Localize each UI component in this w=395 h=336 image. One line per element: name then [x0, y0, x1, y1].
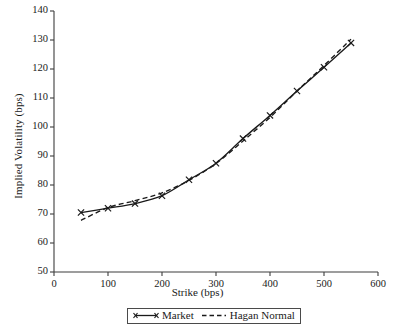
y-tick-label: 90 — [14, 149, 48, 160]
x-tick-label: 200 — [142, 278, 182, 289]
x-tick-label: 300 — [196, 278, 236, 289]
legend-label-market: Market — [162, 310, 194, 321]
y-tick-label: 60 — [14, 236, 48, 247]
y-axis-ticks — [50, 11, 54, 272]
y-tick-label: 130 — [14, 33, 48, 44]
legend-label-hagan-normal: Hagan Normal — [230, 310, 295, 321]
series-line-hagan-normal — [81, 39, 351, 220]
x-tick-label: 0 — [34, 278, 74, 289]
x-tick-label: 400 — [250, 278, 290, 289]
series-markers-market — [78, 40, 354, 216]
legend-item-hagan-normal: Hagan Normal — [201, 310, 295, 321]
chart-figure: Implied Volatility (bps) Strike (bps) 50… — [0, 0, 395, 336]
y-tick-label: 120 — [14, 62, 48, 73]
y-tick-label: 70 — [14, 207, 48, 218]
axis-lines — [54, 11, 378, 272]
legend-swatch-hagan-normal-icon — [201, 310, 227, 321]
legend-swatch-market-icon — [133, 310, 159, 321]
y-tick-label: 140 — [14, 4, 48, 15]
x-axis-ticks — [54, 272, 378, 276]
y-tick-label: 80 — [14, 178, 48, 189]
chart-legend: Market Hagan Normal — [127, 308, 301, 324]
x-tick-label: 500 — [304, 278, 344, 289]
legend-item-market: Market — [133, 310, 194, 321]
y-tick-label: 50 — [14, 265, 48, 276]
series-line-market — [81, 43, 351, 213]
y-tick-label: 100 — [14, 120, 48, 131]
x-tick-label: 100 — [88, 278, 128, 289]
x-tick-label: 600 — [358, 278, 395, 289]
y-axis-title: Implied Volatility (bps) — [12, 66, 24, 226]
y-tick-label: 110 — [14, 91, 48, 102]
